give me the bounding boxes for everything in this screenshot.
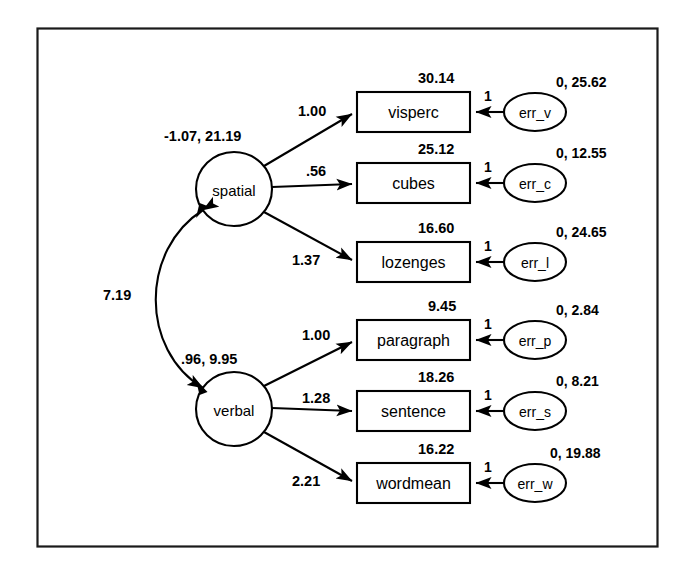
error-path-label-err_s: 1 [484,388,492,402]
indicator-intercept-visperc: 30.14 [418,71,454,86]
loading-arrow-verbal-paragraph [264,342,352,386]
indicator-intercept-sentence: 18.26 [418,370,454,385]
indicator-intercept-wordmean: 16.22 [418,442,454,457]
indicator-intercept-cubes: 25.12 [418,142,454,157]
error-label-err_v: err_v [519,106,551,120]
sem-path-diagram: spatial verbal -1.07, 21.19 .96, 9.95 7.… [0,0,686,574]
loading-arrow-verbal-sentence [272,408,352,411]
loading-label-cubes: .56 [306,164,326,179]
error-label-err_p: err_p [519,334,552,348]
error-label-err_s: err_s [519,405,551,419]
error-path-label-err_c: 1 [484,160,492,174]
loading-label-visperc: 1.00 [298,104,326,119]
indicator-label-sentence: sentence [381,404,446,420]
indicator-label-paragraph: paragraph [377,333,450,349]
loading-arrow-spatial-visperc [264,114,352,166]
error-param-err_v: 0, 25.62 [556,75,607,89]
error-path-label-err_w: 1 [484,460,492,474]
indicator-label-lozenges: lozenges [381,255,445,271]
error-param-err_l: 0, 24.65 [556,225,607,239]
error-param-err_p: 0, 2.84 [556,303,599,317]
error-path-label-err_l: 1 [484,239,492,253]
error-label-err_c: err_c [519,177,551,191]
loading-arrow-spatial-cubes [272,184,352,187]
error-path-label-err_v: 1 [484,89,492,103]
indicator-intercept-paragraph: 9.45 [428,299,456,314]
error-param-err_c: 0, 12.55 [556,146,607,160]
indicator-label-cubes: cubes [392,176,435,192]
error-label-err_w: err_w [517,477,552,491]
error-label-err_l: err_l [521,256,549,270]
loading-label-lozenges: 1.37 [292,253,320,268]
indicator-intercept-lozenges: 16.60 [418,221,454,236]
error-param-err_s: 0, 8.21 [556,374,599,388]
error-path-label-err_p: 1 [484,317,492,331]
indicator-label-visperc: visperc [388,105,439,121]
factor-label-verbal: verbal [214,403,255,418]
loading-label-sentence: 1.28 [302,391,330,406]
factor-param-verbal: .96, 9.95 [181,352,237,367]
error-param-err_w: 0, 19.88 [550,446,601,460]
factor-label-spatial: spatial [212,183,255,198]
indicator-label-wordmean: wordmean [376,476,451,492]
loading-label-wordmean: 2.21 [292,474,320,489]
covariance-label: 7.19 [103,288,131,303]
factor-param-spatial: -1.07, 21.19 [164,129,241,144]
loading-label-paragraph: 1.00 [302,328,330,343]
